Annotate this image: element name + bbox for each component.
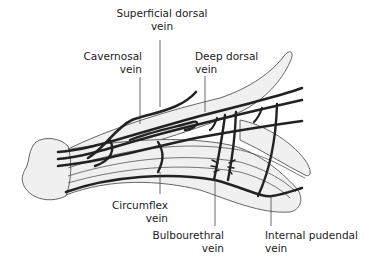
label-text-line1: Bulbourethral: [140, 229, 224, 242]
label-text-line1: Circumflex: [100, 199, 168, 212]
penile-venous-anatomy-diagram: Superficial dorsal vein Cavernosal vein …: [0, 0, 376, 271]
label-bulbourethral-vein: Bulbourethral vein: [140, 229, 224, 255]
glans-shape: [22, 139, 70, 200]
label-text-line2: vein: [100, 212, 168, 225]
label-text-line2: vein: [113, 20, 211, 33]
label-text-line2: vein: [265, 242, 375, 255]
label-circumflex-vein: Circumflex vein: [100, 199, 168, 225]
label-text-line2: vein: [140, 242, 224, 255]
label-text-line1: Internal pudendal: [265, 229, 375, 242]
label-text-line1: Deep dorsal: [195, 50, 275, 63]
label-text-line1: Cavernosal: [80, 50, 142, 63]
label-text-line1: Superficial dorsal: [113, 7, 211, 20]
label-internal-pudendal-vein: Internal pudendal vein: [265, 229, 375, 255]
label-cavernosal-vein: Cavernosal vein: [80, 50, 142, 76]
label-text-line2: vein: [195, 63, 275, 76]
label-deep-dorsal-vein: Deep dorsal vein: [195, 50, 275, 76]
label-superficial-dorsal-vein: Superficial dorsal vein: [113, 7, 211, 33]
label-text-line2: vein: [80, 63, 142, 76]
